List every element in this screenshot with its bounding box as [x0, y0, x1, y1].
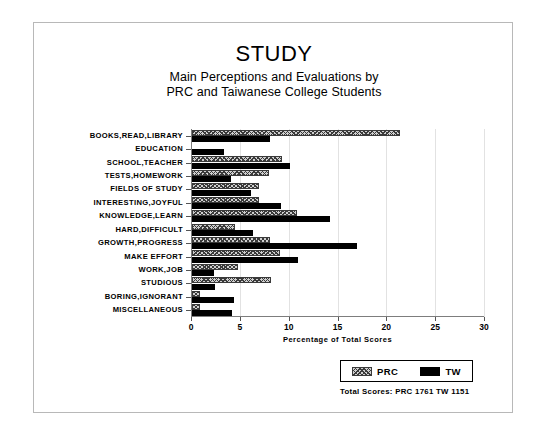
bar-prc [192, 210, 297, 216]
bar-tw [192, 284, 215, 290]
y-axis-category-label: STUDIOUS [141, 279, 183, 287]
x-axis-tick-label: 5 [237, 322, 242, 332]
chart-legend: PRC TW [340, 360, 473, 382]
chart-row: WORK,JOB [191, 263, 484, 276]
bar-prc [192, 170, 269, 176]
y-axis-category-label: SCHOOL,TEACHER [107, 159, 183, 167]
legend-item-tw: TW [420, 366, 461, 377]
y-axis-category-label: FIELDS OF STUDY [110, 185, 183, 193]
totals-footnote: Total Scores: PRC 1761 TW 1151 [340, 387, 520, 396]
y-axis-category-label: HARD,DIFFICULT [115, 226, 183, 234]
chart-row: SCHOOL,TEACHER [191, 156, 484, 169]
page-title: STUDY [34, 41, 514, 67]
bar-prc [192, 130, 400, 136]
chart-row: MAKE EFFORT [191, 250, 484, 263]
x-axis-tick [386, 317, 387, 321]
bar-tw [192, 203, 281, 209]
chart-row: HARD,DIFFICULT [191, 223, 484, 236]
bar-prc [192, 183, 259, 189]
x-axis-tick-label: 10 [284, 322, 293, 332]
x-axis-tick [191, 317, 192, 321]
bar-tw [192, 230, 253, 236]
chart-subtitle: Main Perceptions and Evaluations by PRC … [34, 70, 514, 100]
bar-prc [192, 250, 280, 256]
chart-row: KNOWLEDGE,LEARN [191, 210, 484, 223]
chart-subtitle-line-2: PRC and Taiwanese College Students [34, 85, 514, 100]
bar-prc [192, 156, 282, 162]
y-axis-line [191, 129, 192, 317]
bar-tw [192, 216, 330, 222]
bar-tw [192, 257, 298, 263]
x-axis-title: Percentage of Total Scores [191, 335, 484, 344]
x-axis-tick-label: 20 [382, 322, 391, 332]
y-axis-category-label: TESTS,HOMEWORK [105, 172, 183, 180]
x-axis-tick [484, 317, 485, 321]
x-axis-tick [338, 317, 339, 321]
y-axis-category-label: WORK,JOB [138, 266, 183, 274]
chart-row: GROWTH,PROGRESS [191, 236, 484, 249]
bar-prc [192, 224, 235, 230]
hatched-swatch-icon [352, 367, 372, 376]
y-axis-category-label: EDUCATION [135, 145, 183, 153]
bar-prc [192, 291, 200, 297]
x-axis-tick [240, 317, 241, 321]
gridline [484, 129, 485, 317]
y-axis-category-label: GROWTH,PROGRESS [98, 239, 183, 247]
y-axis-category-label: MISCELLANEOUS [113, 306, 183, 314]
chart-row: EDUCATION [191, 142, 484, 155]
bar-prc [192, 304, 200, 310]
bar-tw [192, 149, 224, 155]
bar-tw [192, 270, 214, 276]
chart-row: TESTS,HOMEWORK [191, 169, 484, 182]
chart-row: INTERESTING,JOYFUL [191, 196, 484, 209]
x-axis-tick [435, 317, 436, 321]
title-block: STUDY Main Perceptions and Evaluations b… [34, 41, 514, 100]
bar-prc [192, 277, 271, 283]
bar-prc [192, 197, 259, 203]
chart-subtitle-line-1: Main Perceptions and Evaluations by [34, 70, 514, 85]
chart-row: STUDIOUS [191, 277, 484, 290]
bar-tw [192, 163, 290, 169]
y-axis-category-label: INTERESTING,JOYFUL [94, 199, 183, 207]
chart-row: MISCELLANEOUS [191, 304, 484, 317]
chart-row: BORING,IGNORANT [191, 290, 484, 303]
chart-frame: STUDY Main Perceptions and Evaluations b… [33, 22, 513, 413]
x-axis-tick-label: 25 [430, 322, 439, 332]
x-axis-tick-label: 15 [333, 322, 342, 332]
y-axis-category-label: BORING,IGNORANT [105, 293, 183, 301]
bar-tw [192, 176, 231, 182]
y-axis-category-label: BOOKS,READ,LIBRARY [90, 132, 183, 140]
chart-row: FIELDS OF STUDY [191, 183, 484, 196]
x-axis-tick-label: 30 [479, 322, 488, 332]
solid-black-swatch-icon [420, 367, 440, 376]
x-axis: 051015202530 Percentage of Total Scores [191, 317, 484, 347]
bar-tw [192, 190, 251, 196]
bar-prc [192, 264, 238, 270]
x-axis-tick [289, 317, 290, 321]
plot-area: BOOKS,READ,LIBRARYEDUCATIONSCHOOL,TEACHE… [191, 129, 484, 317]
x-axis-tick-label: 0 [189, 322, 194, 332]
y-axis-category-label: MAKE EFFORT [124, 253, 183, 261]
legend-label-prc: PRC [377, 366, 398, 377]
legend-label-tw: TW [445, 366, 461, 377]
y-axis-category-label: KNOWLEDGE,LEARN [99, 212, 183, 220]
chart-row: BOOKS,READ,LIBRARY [191, 129, 484, 142]
bar-tw [192, 297, 234, 303]
bar-tw [192, 243, 357, 249]
bar-tw [192, 136, 270, 142]
bar-prc [192, 237, 270, 243]
legend-item-prc: PRC [352, 366, 398, 377]
